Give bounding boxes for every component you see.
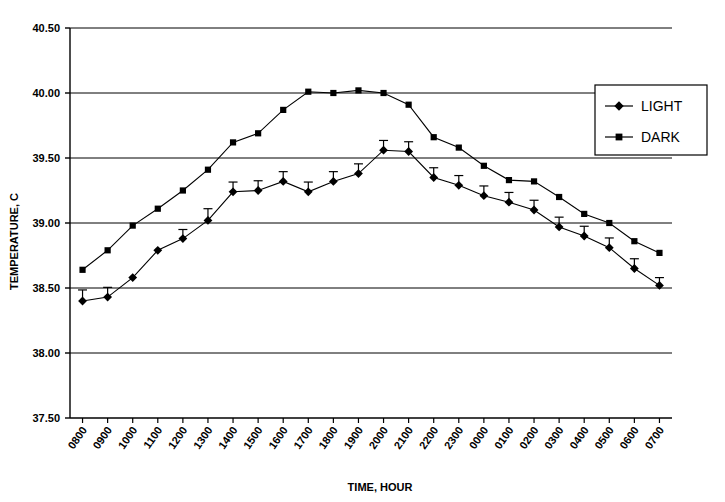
data-series-layer bbox=[78, 87, 664, 305]
data-point-marker bbox=[580, 232, 589, 241]
data-point-marker bbox=[380, 90, 386, 96]
data-point-marker bbox=[78, 297, 87, 306]
data-point-marker bbox=[606, 220, 612, 226]
x-tick-label: 0100 bbox=[492, 424, 516, 451]
y-tick-label: 40.00 bbox=[32, 87, 60, 99]
data-point-marker bbox=[481, 163, 487, 169]
data-point-marker bbox=[431, 134, 437, 140]
legend-label: DARK bbox=[641, 129, 681, 145]
data-point-marker bbox=[178, 234, 187, 243]
data-point-marker bbox=[279, 177, 288, 186]
x-tick-label: 1000 bbox=[115, 424, 139, 451]
chart-legend: LIGHTDARK bbox=[595, 85, 707, 155]
y-tick-label: 38.50 bbox=[32, 282, 60, 294]
data-point-marker bbox=[506, 177, 512, 183]
x-tick-label: 0800 bbox=[65, 424, 89, 451]
data-point-marker bbox=[530, 206, 539, 215]
x-tick-label: 0900 bbox=[90, 424, 114, 451]
y-tick-label: 39.00 bbox=[32, 217, 60, 229]
x-tick-label: 0500 bbox=[592, 424, 616, 451]
x-tick-label: 2300 bbox=[442, 424, 466, 451]
data-point-marker bbox=[581, 211, 587, 217]
data-point-marker bbox=[355, 87, 361, 93]
x-tick-label: 0300 bbox=[542, 424, 566, 451]
chart-canvas: 40.5040.0039.5039.0038.5038.0037.50 0800… bbox=[0, 0, 725, 502]
data-point-marker bbox=[479, 191, 488, 200]
data-point-marker bbox=[280, 107, 286, 113]
series-line bbox=[83, 150, 660, 301]
x-tick-label: 2100 bbox=[391, 424, 415, 451]
data-point-marker bbox=[105, 247, 111, 253]
data-point-marker bbox=[631, 238, 637, 244]
data-point-marker bbox=[130, 223, 136, 229]
data-point-marker bbox=[454, 181, 463, 190]
data-point-marker bbox=[155, 206, 161, 212]
gridlines bbox=[70, 28, 672, 418]
data-point-marker bbox=[456, 145, 462, 151]
x-tick-label: 0000 bbox=[467, 424, 491, 451]
y-axis-ticks: 40.5040.0039.5039.0038.5038.0037.50 bbox=[32, 22, 70, 424]
data-point-marker bbox=[505, 198, 514, 207]
x-tick-label: 1100 bbox=[141, 424, 165, 450]
x-tick-label: 1400 bbox=[216, 424, 240, 451]
y-tick-label: 37.50 bbox=[32, 412, 60, 424]
legend-label: LIGHT bbox=[641, 98, 683, 114]
data-point-marker bbox=[205, 167, 211, 173]
x-tick-label: 1600 bbox=[266, 424, 290, 451]
data-point-marker bbox=[531, 178, 537, 184]
y-tick-label: 38.00 bbox=[32, 347, 60, 359]
x-axis-ticks: 0800090010001100120013001400150016001700… bbox=[65, 418, 666, 451]
data-point-marker bbox=[555, 223, 564, 232]
data-point-marker bbox=[305, 89, 311, 95]
data-point-marker bbox=[330, 90, 336, 96]
x-axis-title: TIME, HOUR bbox=[348, 481, 413, 493]
data-point-marker bbox=[79, 267, 85, 273]
legend-marker-square-icon bbox=[616, 134, 623, 141]
x-tick-label: 1300 bbox=[191, 424, 215, 451]
y-axis-title: TEMPERATURE, C bbox=[8, 193, 20, 290]
x-tick-label: 0700 bbox=[642, 424, 666, 451]
series-dark bbox=[79, 87, 662, 273]
data-point-marker bbox=[254, 186, 263, 195]
x-tick-label: 1200 bbox=[166, 424, 190, 451]
data-point-marker bbox=[406, 102, 412, 108]
y-tick-label: 40.50 bbox=[32, 22, 60, 34]
data-point-marker bbox=[656, 250, 662, 256]
data-point-marker bbox=[255, 130, 261, 136]
x-tick-label: 1900 bbox=[341, 424, 365, 451]
x-tick-label: 0400 bbox=[567, 424, 591, 451]
y-tick-label: 39.50 bbox=[32, 152, 60, 164]
series-line bbox=[83, 90, 660, 269]
data-point-marker bbox=[230, 139, 236, 145]
x-tick-label: 2200 bbox=[416, 424, 440, 451]
x-tick-label: 1700 bbox=[291, 424, 315, 451]
data-point-marker bbox=[180, 187, 186, 193]
x-tick-label: 0600 bbox=[617, 424, 641, 451]
data-point-marker bbox=[556, 194, 562, 200]
data-point-marker bbox=[304, 187, 313, 196]
x-tick-label: 1500 bbox=[241, 424, 265, 451]
x-tick-label: 0200 bbox=[517, 424, 541, 451]
temperature-line-chart: 40.5040.0039.5039.0038.5038.0037.50 0800… bbox=[0, 0, 725, 502]
x-tick-label: 1800 bbox=[316, 424, 340, 451]
data-point-marker bbox=[329, 177, 338, 186]
x-tick-label: 2000 bbox=[366, 424, 390, 451]
